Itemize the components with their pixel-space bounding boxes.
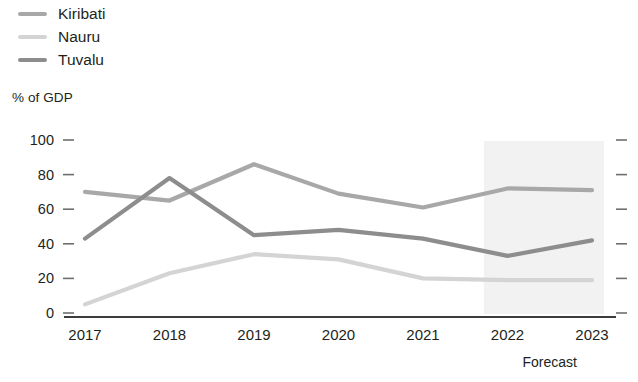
y-tick-label: 60: [12, 202, 54, 217]
x-tick-label: 2021: [388, 327, 458, 342]
y-tick-label: 80: [12, 168, 54, 183]
x-tick-label: 2020: [304, 327, 374, 342]
x-tick-label: 2018: [135, 327, 205, 342]
chart-svg: [0, 0, 638, 382]
y-tick-label: 20: [12, 271, 54, 286]
x-tick-label: 2023: [557, 327, 627, 342]
y-tick-label: 100: [12, 133, 54, 148]
x-tick-label: 2017: [50, 327, 120, 342]
plot-area: [0, 0, 638, 382]
y-axis-ticks-left: [63, 140, 74, 313]
forecast-annotation-label: Forecast: [490, 355, 610, 369]
x-tick-label: 2022: [473, 327, 543, 342]
y-axis-ticks-right: [616, 140, 627, 313]
x-tick-label: 2019: [219, 327, 289, 342]
y-tick-label: 40: [12, 237, 54, 252]
chart-container: Kiribati Nauru Tuvalu % of GDP 100806040…: [0, 0, 638, 382]
forecast-band: [484, 141, 604, 314]
y-tick-label: 0: [12, 306, 54, 321]
